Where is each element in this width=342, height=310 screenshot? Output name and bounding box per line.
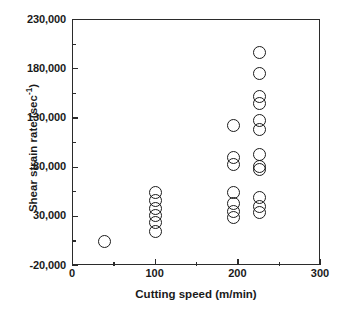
x-axis-tick [320,259,321,265]
data-point [253,46,266,59]
data-point [149,225,162,238]
y-axis-title: Shear strain rate (sec-1) [27,33,39,263]
y-axis-tick-label: 230,000 [0,14,66,25]
data-point-layer [73,20,319,264]
data-point [253,97,266,110]
x-axis-tick [237,259,238,265]
data-point [227,119,240,132]
data-point [98,235,111,248]
x-axis-tick-label: 300 [290,268,342,279]
x-axis-tick [155,259,156,265]
x-axis-title: Cutting speed (m/min) [72,288,320,300]
data-point [253,206,266,219]
data-point [227,211,240,224]
y-axis-minor-tick [72,93,76,94]
plot-area [72,19,320,265]
x-axis-minor-tick [279,262,280,266]
scatter-chart: -20,00030,00080,000130,000180,000230,000… [0,0,342,310]
y-axis-tick [72,167,78,168]
data-point [253,163,266,176]
x-axis-tick-label: 0 [42,268,102,279]
y-axis-minor-tick [72,191,76,192]
x-axis-tick-label: 100 [125,268,185,279]
y-axis-minor-tick [72,44,76,45]
y-axis-tick [72,68,78,69]
y-axis-minor-tick [72,142,76,143]
x-axis-tick-label: 200 [207,268,267,279]
y-axis-tick [72,117,78,118]
data-point [253,123,266,136]
y-axis-tick [72,216,78,217]
y-axis-minor-tick [72,240,76,241]
data-point [227,158,240,171]
x-axis-tick [72,259,73,265]
x-axis-minor-tick [196,262,197,266]
x-axis-minor-tick [113,262,114,266]
data-point [253,67,266,80]
y-axis-tick [72,19,78,20]
